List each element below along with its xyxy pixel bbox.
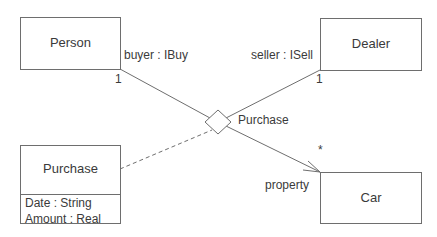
- multiplicity-dealer: 1: [316, 72, 323, 86]
- association-line-person: [120, 69, 210, 118]
- class-name: Purchase: [21, 161, 120, 176]
- role-label-seller: seller : ISell: [251, 48, 313, 62]
- attribute-date: Date : String: [21, 195, 120, 211]
- class-name: Car: [321, 190, 421, 205]
- multiplicity-person: 1: [115, 72, 122, 86]
- role-label-property: property: [265, 178, 309, 192]
- class-person[interactable]: Person: [20, 17, 121, 70]
- association-line-car: [226, 126, 320, 172]
- association-name-label: Purchase: [238, 113, 289, 127]
- class-purchase[interactable]: Purchase Date : String Amount : Real: [20, 145, 121, 224]
- class-name-compartment: Purchase: [21, 146, 120, 195]
- multiplicity-car: *: [318, 143, 323, 157]
- class-car[interactable]: Car: [320, 172, 422, 224]
- association-diamond-icon: [205, 110, 231, 134]
- class-dealer[interactable]: Dealer: [320, 18, 422, 71]
- association-line-dealer: [226, 70, 320, 118]
- class-name: Person: [21, 35, 120, 50]
- role-label-buyer: buyer : IBuy: [124, 48, 188, 62]
- attribute-amount: Amount : Real: [21, 211, 120, 227]
- class-name: Dealer: [321, 36, 421, 51]
- attribute-compartment: Date : String Amount : Real: [21, 195, 120, 227]
- association-class-dashed-line: [120, 130, 212, 169]
